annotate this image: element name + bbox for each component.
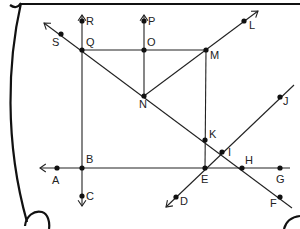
- label-K: K: [209, 128, 217, 140]
- label-I: I: [228, 146, 231, 158]
- point-E: [202, 165, 207, 170]
- point-M: [203, 47, 208, 52]
- label-F: F: [270, 197, 277, 209]
- point-D: [173, 194, 178, 199]
- segment-MK: [205, 50, 206, 168]
- label-E: E: [201, 173, 208, 185]
- label-R: R: [86, 15, 94, 27]
- label-M: M: [210, 49, 219, 61]
- point-L: [241, 18, 246, 23]
- label-S: S: [52, 36, 59, 48]
- point-O: [141, 47, 146, 52]
- ray-NL: [144, 11, 258, 96]
- point-F: [277, 194, 282, 199]
- label-A: A: [52, 174, 60, 186]
- point-J: [277, 94, 282, 99]
- point-I: [219, 149, 224, 154]
- label-J: J: [283, 95, 289, 107]
- point-B: [79, 165, 84, 170]
- point-G: [277, 165, 282, 170]
- label-P: P: [148, 15, 155, 27]
- point-A: [54, 165, 59, 170]
- lines-layer: [40, 11, 294, 208]
- label-D: D: [180, 195, 188, 207]
- label-N: N: [139, 98, 147, 110]
- geometry-diagram: ABCDEFGHIJKLMNOPQRS: [0, 0, 300, 229]
- point-R: [79, 18, 84, 23]
- label-G: G: [276, 173, 285, 185]
- point-P: [141, 18, 146, 23]
- point-C: [79, 193, 84, 198]
- point-K: [202, 137, 207, 142]
- labels-layer: ABCDEFGHIJKLMNOPQRS: [52, 15, 289, 209]
- label-L: L: [249, 19, 255, 31]
- label-O: O: [147, 36, 156, 48]
- label-Q: Q: [86, 36, 95, 48]
- label-B: B: [86, 153, 93, 165]
- label-C: C: [86, 190, 94, 202]
- point-Q: [79, 47, 84, 52]
- label-H: H: [245, 154, 253, 166]
- point-H: [239, 165, 244, 170]
